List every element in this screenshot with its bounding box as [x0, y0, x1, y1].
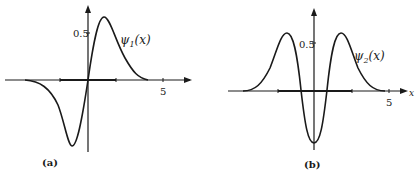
xaxis-label-b: x: [409, 88, 414, 98]
x-axis-arrow-icon: [400, 88, 408, 94]
curve-label-b: ψ2(x): [354, 49, 385, 65]
curve-label-a: ψ1(x): [120, 33, 151, 49]
y-axis-arrow-icon: [311, 8, 317, 16]
y-axis-arrow-icon: [85, 5, 91, 13]
panel-label-b: (b): [304, 159, 320, 170]
ytick-label-a: 0.5: [73, 28, 89, 39]
figure: 0.5 5 ψ1(x) (a) 0.5 5 x ψ2(x) (b): [0, 0, 416, 171]
xtick-label-a: 5: [160, 86, 166, 97]
xtick-label-b: 5: [386, 97, 392, 108]
panel-b: 0.5 5 x ψ2(x) (b): [228, 8, 414, 170]
x-axis-arrow-icon: [184, 77, 192, 83]
panel-a: 0.5 5 ψ1(x) (a): [5, 5, 192, 168]
panel-label-a: (a): [42, 157, 58, 168]
ytick-label-b: 0.5: [299, 39, 315, 50]
